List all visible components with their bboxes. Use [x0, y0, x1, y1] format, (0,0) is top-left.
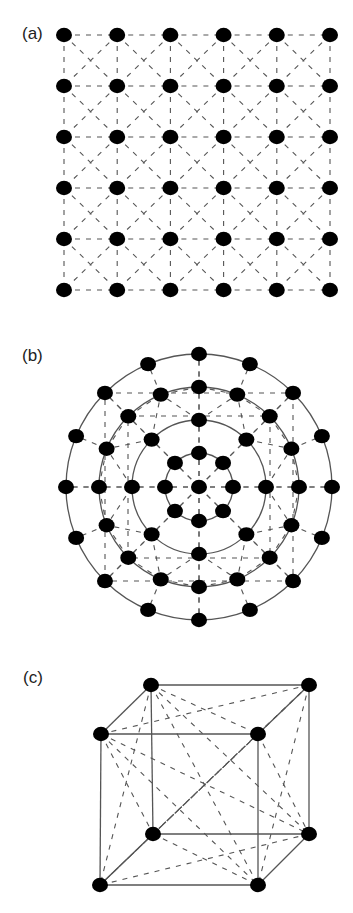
lattice-node — [144, 527, 160, 541]
lattice-node — [191, 413, 207, 427]
lattice-node — [153, 572, 169, 586]
lattice-node — [191, 347, 207, 361]
lattice-node — [99, 518, 115, 532]
lattice-node — [191, 480, 207, 494]
lattice-node — [153, 387, 169, 401]
lattice-node — [124, 480, 140, 494]
lattice-node — [216, 79, 232, 93]
lattice-node — [144, 432, 160, 446]
lattice-node — [322, 28, 338, 42]
lattice-node — [109, 130, 125, 144]
lattice-node — [191, 446, 207, 460]
lattice-node — [162, 232, 178, 246]
lattice-node — [162, 283, 178, 297]
lattice-node — [285, 574, 301, 588]
cube-edge — [151, 685, 153, 834]
lattice-node — [238, 432, 254, 446]
lattice-node — [291, 480, 307, 494]
lattice-node — [143, 678, 159, 692]
dashed-diagonal — [100, 685, 151, 885]
lattice-node — [68, 531, 84, 545]
dashed-diagonal — [153, 834, 258, 885]
lattice-node — [191, 613, 207, 627]
lattice-node — [262, 409, 278, 423]
lattice-node — [191, 380, 207, 394]
lattice-node — [167, 504, 183, 518]
lattice-node — [162, 79, 178, 93]
lattice-node — [68, 429, 84, 443]
lattice-node — [157, 480, 173, 494]
lattice-node — [301, 678, 317, 692]
lattice-node — [242, 357, 258, 371]
dashed-diagonal — [151, 685, 258, 734]
lattice-node — [322, 181, 338, 195]
cube-edge — [101, 685, 151, 734]
lattice-node — [322, 283, 338, 297]
cube-graph-diagram — [92, 678, 317, 892]
lattice-node — [216, 28, 232, 42]
lattice-node — [145, 827, 161, 841]
lattice-node — [140, 603, 156, 617]
lattice-node — [109, 283, 125, 297]
lattice-node — [191, 514, 207, 528]
lattice-node — [322, 79, 338, 93]
lattice-node — [56, 79, 72, 93]
lattice-node — [283, 442, 299, 456]
lattice-node — [229, 572, 245, 586]
lattice-node — [283, 518, 299, 532]
lattice-node — [191, 547, 207, 561]
lattice-node — [97, 386, 113, 400]
cube-edge — [100, 734, 101, 885]
lattice-node — [162, 181, 178, 195]
lattice-node — [258, 480, 274, 494]
lattice-node — [322, 232, 338, 246]
lattice-node — [216, 130, 232, 144]
dashed-diagonal — [101, 734, 153, 834]
lattice-node — [99, 442, 115, 456]
lattice-node — [92, 878, 108, 892]
lattice-node — [109, 79, 125, 93]
lattice-node — [301, 827, 317, 841]
lattice-node — [250, 727, 266, 741]
lattice-node — [216, 181, 232, 195]
lattice-node — [238, 527, 254, 541]
lattice-figures — [0, 0, 353, 913]
lattice-node — [120, 551, 136, 565]
lattice-node — [109, 232, 125, 246]
lattice-node — [109, 28, 125, 42]
square-lattice-diagram — [56, 28, 338, 297]
lattice-node — [162, 130, 178, 144]
lattice-node — [91, 480, 107, 494]
lattice-node — [56, 181, 72, 195]
lattice-node — [324, 480, 340, 494]
lattice-node — [250, 878, 266, 892]
lattice-node — [314, 429, 330, 443]
lattice-node — [93, 727, 109, 741]
lattice-node — [269, 28, 285, 42]
lattice-node — [56, 130, 72, 144]
lattice-node — [262, 551, 278, 565]
lattice-node — [215, 504, 231, 518]
lattice-node — [167, 456, 183, 470]
lattice-node — [269, 283, 285, 297]
lattice-node — [269, 181, 285, 195]
cube-edge — [258, 834, 309, 885]
concentric-rings-diagram — [58, 347, 340, 627]
lattice-node — [97, 574, 113, 588]
cube-edge — [100, 834, 153, 885]
lattice-node — [162, 28, 178, 42]
lattice-node — [322, 130, 338, 144]
lattice-node — [109, 181, 125, 195]
lattice-node — [229, 387, 245, 401]
lattice-node — [58, 480, 74, 494]
lattice-node — [191, 580, 207, 594]
cube-edge — [258, 685, 309, 734]
lattice-node — [242, 603, 258, 617]
lattice-node — [216, 232, 232, 246]
dashed-diagonal — [258, 734, 309, 834]
lattice-node — [269, 79, 285, 93]
lattice-node — [120, 409, 136, 423]
lattice-node — [56, 28, 72, 42]
lattice-node — [285, 386, 301, 400]
lattice-node — [269, 232, 285, 246]
